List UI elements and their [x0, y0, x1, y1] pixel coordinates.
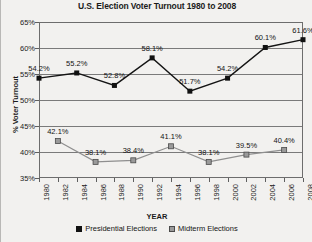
- y-tick-mark: [35, 100, 39, 101]
- x-tick-mark: [171, 178, 172, 182]
- x-tick-label: 1994: [174, 184, 183, 201]
- x-tick-mark: [190, 178, 191, 182]
- data-point-label: 38.1%: [85, 148, 106, 157]
- x-tick-label: 1996: [193, 184, 202, 201]
- x-tick-mark: [96, 178, 97, 182]
- y-axis-title: % Voter Turnout: [11, 45, 20, 165]
- y-tick-label: 60%: [5, 44, 35, 53]
- y-tick-label: 65%: [5, 18, 35, 27]
- x-tick-label: 1988: [117, 184, 126, 201]
- legend-item-midterm: Midterm Elections: [169, 224, 238, 233]
- legend-swatch-presidential-icon: [76, 226, 82, 232]
- data-point-label: 40.4%: [274, 136, 295, 145]
- data-point-label: 38.4%: [123, 146, 144, 155]
- chart-figure: U.S. Election Voter Turnout 1980 to 2008…: [0, 0, 312, 242]
- x-tick-label: 2004: [268, 184, 277, 201]
- x-tick-mark: [246, 178, 247, 182]
- x-tick-mark: [265, 178, 266, 182]
- data-point-label: 61.6%: [292, 26, 312, 35]
- x-tick-mark: [77, 178, 78, 182]
- legend-label-midterm: Midterm Elections: [178, 224, 238, 233]
- data-point-label: 54.2%: [28, 64, 49, 73]
- data-point-label: 58.1%: [142, 44, 163, 53]
- data-point-label: 42.1%: [47, 127, 68, 136]
- data-point-label: 39.5%: [236, 141, 257, 150]
- x-tick-label: 1986: [99, 184, 108, 201]
- x-tick-mark: [303, 178, 304, 182]
- x-tick-mark: [39, 178, 40, 182]
- legend-item-presidential: Presidential Elections: [76, 224, 157, 233]
- x-tick-label: 1998: [212, 184, 221, 201]
- x-tick-label: 2002: [249, 184, 258, 201]
- chart-legend: Presidential Elections Midterm Elections: [1, 224, 312, 233]
- y-tick-mark: [35, 126, 39, 127]
- x-tick-label: 1984: [80, 184, 89, 201]
- data-point-label: 41.1%: [160, 132, 181, 141]
- y-tick-mark: [35, 152, 39, 153]
- data-point-label: 38.1%: [198, 148, 219, 157]
- x-tick-mark: [114, 178, 115, 182]
- y-tick-label: 50%: [5, 96, 35, 105]
- y-tick-mark: [35, 48, 39, 49]
- x-axis-title: YEAR: [1, 212, 312, 221]
- x-tick-label: 2006: [287, 184, 296, 201]
- y-tick-label: 45%: [5, 122, 35, 131]
- y-tick-label: 35%: [5, 174, 35, 183]
- y-tick-label: 40%: [5, 148, 35, 157]
- x-tick-label: 2008: [306, 184, 312, 201]
- x-tick-mark: [209, 178, 210, 182]
- x-tick-mark: [284, 178, 285, 182]
- x-tick-mark: [228, 178, 229, 182]
- data-point-label: 52.8%: [104, 71, 125, 80]
- x-tick-mark: [133, 178, 134, 182]
- x-tick-mark: [58, 178, 59, 182]
- legend-label-presidential: Presidential Elections: [85, 224, 157, 233]
- x-tick-mark: [152, 178, 153, 182]
- x-tick-label: 1990: [136, 184, 145, 201]
- y-tick-mark: [35, 74, 39, 75]
- data-point-label: 55.2%: [66, 59, 87, 68]
- x-tick-label: 1982: [61, 184, 70, 201]
- x-tick-label: 2000: [231, 184, 240, 201]
- data-point-label: 51.7%: [179, 77, 200, 86]
- legend-swatch-midterm-icon: [169, 226, 175, 232]
- data-point-label: 60.1%: [255, 33, 276, 42]
- y-tick-mark: [35, 22, 39, 23]
- x-tick-label: 1980: [42, 184, 51, 201]
- data-point-label: 54.2%: [217, 64, 238, 73]
- x-tick-label: 1992: [155, 184, 164, 201]
